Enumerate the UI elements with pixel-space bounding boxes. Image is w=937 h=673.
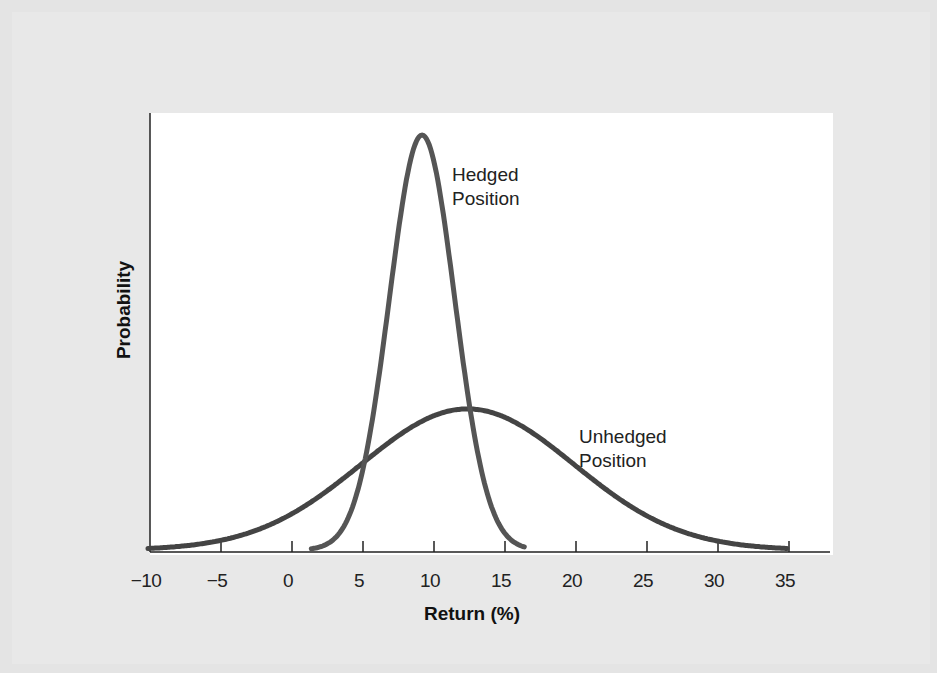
x-tick-label: 10 xyxy=(420,570,440,592)
x-axis-label: Return (%) xyxy=(424,603,520,625)
y-axis-label: Probability xyxy=(113,261,135,359)
unhedged-annotation: Unhedged Position xyxy=(579,425,667,473)
hedged-annotation-line1: Hedged xyxy=(452,163,520,187)
unhedged-annotation-line2: Position xyxy=(579,449,667,473)
x-tick-label: 20 xyxy=(562,570,582,592)
unhedged-annotation-line1: Unhedged xyxy=(579,425,667,449)
x-tick-label: 30 xyxy=(704,570,724,592)
x-tick-label: 5 xyxy=(354,570,364,592)
x-tick-label: 35 xyxy=(775,570,795,592)
x-tick-label: −10 xyxy=(131,570,162,592)
hedged-annotation: Hedged Position xyxy=(452,163,520,211)
x-tick-label: 15 xyxy=(491,570,511,592)
x-tick-label: −5 xyxy=(207,570,228,592)
unhedged-curve xyxy=(148,409,787,549)
x-tick-label: 0 xyxy=(283,570,293,592)
hedged-annotation-line2: Position xyxy=(452,187,520,211)
x-tick-label: 25 xyxy=(633,570,653,592)
